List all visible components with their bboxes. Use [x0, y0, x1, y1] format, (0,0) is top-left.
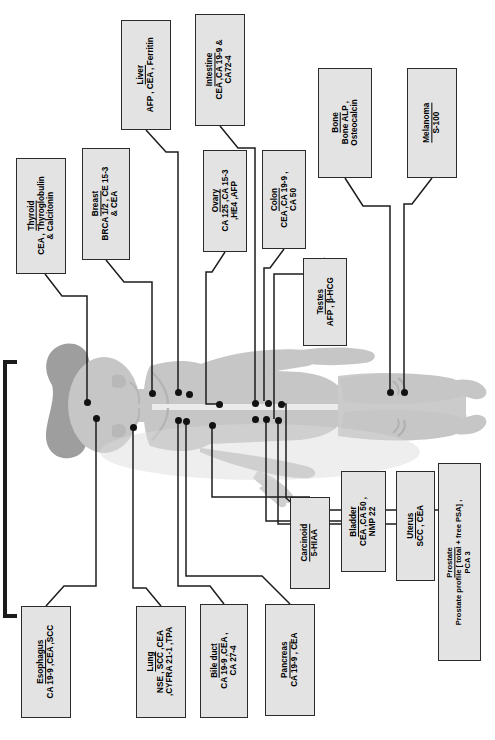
dot-lung	[130, 424, 137, 431]
label-box-uterus[interactable]: UterusSCC , CEA	[396, 471, 435, 581]
label-box-ovary[interactable]: OvaryCA 125 ,CA 15-3,HE4 ,AFP	[203, 150, 247, 252]
dot-melanoma	[401, 389, 408, 396]
dot-carcinoid	[209, 422, 216, 429]
label-text-ovary: OvaryCA 125 ,CA 15-3,HE4 ,AFP	[211, 170, 240, 232]
label-title-breast: Breast	[91, 167, 101, 241]
label-markers-bone: Bone ALP ,Osteocalcin	[340, 100, 359, 146]
label-box-liver[interactable]: LiverAFP , CEA , Ferritin	[121, 20, 171, 130]
label-box-bone[interactable]: BoneBone ALP ,Osteocalcin	[318, 68, 372, 178]
dot-liver-2	[186, 391, 193, 398]
label-markers-uterus: SCC , CEA	[416, 505, 426, 546]
label-title-uterus: Uterus	[406, 505, 416, 546]
dot-testes	[252, 416, 259, 423]
dot-intestine	[252, 400, 259, 407]
label-markers-breast: BRCA 1/2 , CE 15-3& CEA	[101, 167, 120, 241]
label-markers-esophagus: CA 19-9 ,CEA ,SCC	[46, 625, 56, 699]
label-box-testes[interactable]: TestesAFP , β-HCG	[303, 258, 347, 346]
label-text-bone: BoneBone ALP ,Osteocalcin	[330, 100, 359, 146]
dot-breast	[149, 390, 156, 397]
label-text-testes: TestesAFP , β-HCG	[315, 278, 334, 327]
label-markers-colon: CEA ,CA 19-9 ,CA 50	[279, 171, 298, 227]
dot-liver	[175, 389, 182, 396]
label-title-bile-duct: Bile duct	[210, 633, 220, 689]
dot-ovary	[216, 401, 223, 408]
label-markers-intestine: CEA ,CA 19-9 &CA72-4	[215, 40, 234, 100]
diagram-canvas: ThyroidCEA , Thyroglobulin& CalcitoninBr…	[0, 0, 495, 740]
label-box-intestine[interactable]: IntestineCEA ,CA 19-9 &CA72-4	[195, 14, 245, 126]
label-text-prostate: ProstateProstate profile [ total + free …	[446, 499, 473, 625]
label-text-liver: LiverAFP , CEA , Ferritin	[136, 37, 155, 112]
dot-prostate	[278, 401, 285, 408]
label-title-ovary: Ovary	[211, 170, 221, 232]
label-title-testes: Testes	[315, 278, 325, 327]
label-markers-ovary: CA 125 ,CA 15-3,HE4 ,AFP	[220, 170, 239, 232]
label-text-lung: LungNSE , SCC ,CEA,CYFRA 21-1 ,TPA	[146, 627, 175, 696]
label-text-thyroid: ThyroidCEA , Thyroglobulin& Calcitonin	[27, 177, 56, 255]
label-markers-liver: AFP , CEA , Ferritin	[146, 37, 156, 112]
label-box-thyroid[interactable]: ThyroidCEA , Thyroglobulin& Calcitonin	[16, 158, 66, 274]
label-text-intestine: IntestineCEA ,CA 19-9 &CA72-4	[205, 40, 234, 100]
label-text-bile-duct: Bile ductCA 19-9 ,CEA ,CA 27-4	[210, 633, 239, 689]
label-box-prostate[interactable]: ProstateProstate profile [ total + free …	[438, 463, 481, 661]
label-text-melanoma: MelanomaS-100	[422, 103, 441, 143]
label-title-colon: Colon	[270, 171, 280, 227]
dot-bileduct	[175, 417, 182, 424]
label-title-bone: Bone	[330, 100, 340, 146]
label-box-colon[interactable]: ColonCEA ,CA 19-9 ,CA 50	[262, 150, 306, 249]
label-title-thyroid: Thyroid	[27, 177, 37, 255]
label-box-esophagus[interactable]: EsophagusCA 19-9 ,CEA ,SCC	[21, 606, 71, 718]
label-markers-carcinoid: 5-HIAA	[310, 524, 320, 562]
dot-colon	[265, 400, 272, 407]
label-text-bladder: BladderCEA ,CA 50 ,NMP 22	[349, 497, 378, 546]
label-title-lung: Lung	[146, 627, 156, 696]
label-title-melanoma: Melanoma	[422, 103, 432, 143]
label-markers-bile-duct: CA 19-9 ,CEA ,CA 27-4	[219, 633, 238, 689]
label-text-esophagus: EsophagusCA 19-9 ,CEA ,SCC	[36, 625, 55, 699]
label-title-intestine: Intestine	[205, 40, 215, 100]
label-box-pancreas[interactable]: PancreasCA 19-9 , CEA	[265, 604, 315, 716]
label-title-pancreas: Pancreas	[280, 633, 290, 687]
dot-bladder	[263, 416, 270, 423]
label-title-carcinoid: Carcinoid	[300, 524, 310, 562]
label-box-bile-duct[interactable]: Bile ductCA 19-9 ,CEA ,CA 27-4	[200, 604, 248, 718]
label-box-melanoma[interactable]: MelanomaS-100	[407, 68, 457, 178]
label-text-breast: BreastBRCA 1/2 , CE 15-3& CEA	[91, 167, 120, 241]
label-text-colon: ColonCEA ,CA 19-9 ,CA 50	[270, 171, 299, 227]
label-markers-testes: AFP , β-HCG	[325, 278, 335, 327]
dot-esophagus	[93, 415, 100, 422]
label-title-bladder: Bladder	[349, 497, 359, 546]
label-markers-thyroid: CEA , Thyroglobulin& Calcitonin	[36, 177, 55, 255]
label-box-breast[interactable]: BreastBRCA 1/2 , CE 15-3& CEA	[82, 148, 130, 260]
label-text-pancreas: PancreasCA 19-9 , CEA	[280, 633, 299, 687]
label-text-carcinoid: Carcinoid5-HIAA	[300, 524, 319, 562]
dot-thyroid	[84, 399, 91, 406]
label-markers-prostate: Prostate profile [ total + free PSA] ,PC…	[455, 499, 473, 625]
dot-bone	[387, 389, 394, 396]
label-box-bladder[interactable]: BladderCEA ,CA 50 ,NMP 22	[341, 471, 386, 572]
label-box-carcinoid[interactable]: Carcinoid5-HIAA	[290, 497, 330, 589]
label-markers-melanoma: S-100	[432, 103, 442, 143]
dot-uterus	[275, 417, 282, 424]
label-markers-pancreas: CA 19-9 , CEA	[290, 633, 300, 687]
label-text-uterus: UterusSCC , CEA	[406, 505, 425, 546]
label-markers-lung: NSE , SCC ,CEA,CYFRA 21-1 ,TPA	[156, 627, 175, 696]
label-box-lung[interactable]: LungNSE , SCC ,CEA,CYFRA 21-1 ,TPA	[136, 606, 186, 718]
label-markers-bladder: CEA ,CA 50 ,NMP 22	[359, 497, 378, 546]
dot-pancreas	[183, 418, 190, 425]
label-title-esophagus: Esophagus	[36, 625, 46, 699]
